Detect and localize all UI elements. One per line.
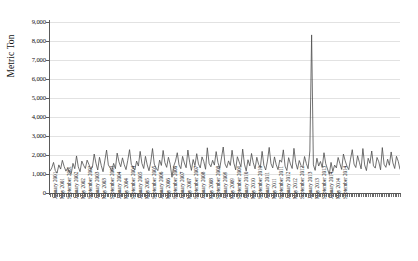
y-axis-tick-label: 4,000 bbox=[6, 113, 46, 120]
y-axis-tick-label: 6,000 bbox=[6, 75, 46, 82]
y-axis-tick-mark bbox=[46, 60, 49, 61]
y-axis-tick-label: 0 bbox=[6, 189, 46, 196]
y-axis-tick-mark bbox=[46, 98, 49, 99]
series-polyline bbox=[50, 35, 400, 177]
y-axis-tick-mark bbox=[46, 22, 49, 23]
y-axis-tick-mark bbox=[46, 155, 49, 156]
y-axis-tick-label: 7,000 bbox=[6, 56, 46, 63]
y-axis-tick-mark bbox=[46, 79, 49, 80]
y-axis-tick-mark bbox=[46, 174, 49, 175]
y-axis-tick-mark bbox=[46, 193, 49, 194]
y-axis-tick-label: 2,000 bbox=[6, 151, 46, 158]
y-axis-tick-label: 1,000 bbox=[6, 170, 46, 177]
x-axis-tick-mark bbox=[400, 194, 401, 197]
line-chart: Metric Ton 01,0002,0003,0004,0005,0006,0… bbox=[0, 0, 418, 261]
y-axis-tick-mark bbox=[46, 117, 49, 118]
data-series-line bbox=[50, 22, 400, 193]
y-axis-tick-mark bbox=[46, 41, 49, 42]
y-axis-tick-mark bbox=[46, 136, 49, 137]
y-axis-tick-label: 9,000 bbox=[6, 18, 46, 25]
y-axis-tick-label: 3,000 bbox=[6, 132, 46, 139]
y-axis-tick-label: 5,000 bbox=[6, 94, 46, 101]
y-axis-tick-label: 8,000 bbox=[6, 37, 46, 44]
